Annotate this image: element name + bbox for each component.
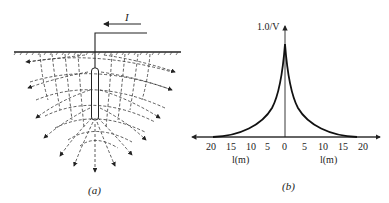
caption-a: (a) — [88, 185, 101, 196]
x-tick-left-10: 10 — [246, 142, 256, 152]
x-tick-right-5: 5 — [302, 142, 307, 152]
figure-canvas — [0, 0, 389, 203]
x-tick-left-20: 20 — [206, 142, 216, 152]
ground-electrode-diagram — [14, 24, 181, 172]
rod-electrode — [92, 68, 99, 120]
x-tick-center-0: 0 — [282, 142, 287, 152]
x-tick-right-20: 20 — [358, 142, 368, 152]
caption-a-text: (a) — [88, 184, 101, 196]
x-tick-right-15: 15 — [338, 142, 348, 152]
y-axis-label: 1.0/V — [257, 22, 280, 32]
potential-distribution-chart — [192, 26, 380, 137]
equipotential-lines — [28, 58, 172, 148]
lead-wire — [95, 33, 147, 68]
current-label: I — [125, 12, 129, 23]
x-axis-label-right: l(m) — [320, 155, 337, 165]
x-tick-left-15: 15 — [226, 142, 236, 152]
current-flow-lines — [26, 54, 175, 172]
caption-b: (b) — [282, 181, 295, 192]
x-axis-label-left: l(m) — [232, 155, 249, 165]
x-tick-left-5: 5 — [265, 142, 270, 152]
x-tick-right-10: 10 — [318, 142, 328, 152]
